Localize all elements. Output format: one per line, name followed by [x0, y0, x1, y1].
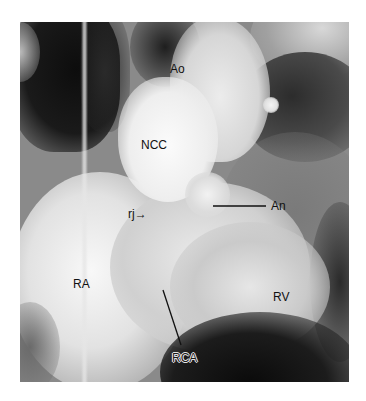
label-rv: RV	[273, 291, 289, 303]
label-ncc: NCC	[141, 139, 167, 151]
rca-pointer-line	[163, 290, 181, 345]
label-rca: RCA	[172, 352, 197, 364]
label-rj: rj→	[128, 208, 147, 220]
label-ra: RA	[73, 278, 90, 290]
label-an: An	[271, 200, 286, 212]
angiogram-image: Ao NCC An rj→ RA RV RCA	[20, 22, 349, 382]
label-ao: Ao	[170, 63, 185, 75]
pointer-lines	[20, 22, 349, 382]
